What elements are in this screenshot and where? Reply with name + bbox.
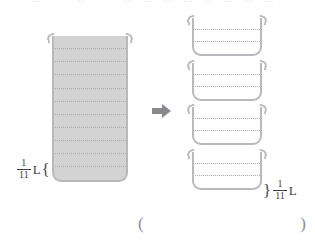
clipped-text: — □ — □ — □ □ □ □ □ □ □ □ [8, 0, 277, 6]
left-fraction: 1 11 [17, 158, 31, 180]
left-brace: { [42, 161, 50, 178]
portion-container-3 [192, 107, 262, 145]
left-unit: L [33, 163, 41, 176]
right-measure-label: } 1 11 L [262, 179, 297, 201]
right-fraction-denominator: 11 [273, 190, 287, 202]
right-brace: } [263, 182, 271, 199]
arrow-right-icon [152, 103, 172, 119]
portion-container-4-graduations [195, 152, 260, 188]
answer-blank-open-paren: ( [138, 214, 144, 234]
answer-blank-close-paren: ) [300, 214, 306, 234]
portion-container-1-graduations [195, 18, 260, 54]
whole-container-graduations [55, 36, 126, 180]
portion-container-1 [192, 18, 262, 56]
right-unit: L [289, 184, 297, 197]
left-fraction-numerator: 1 [19, 158, 28, 169]
right-fraction-numerator: 1 [275, 179, 284, 190]
whole-container [52, 36, 128, 182]
portion-container-4 [192, 152, 262, 190]
portion-container-3-graduations [195, 107, 260, 143]
portion-container-2-graduations [195, 63, 260, 99]
left-fraction-denominator: 11 [17, 169, 31, 181]
clipped-text-strip: — □ — □ — □ □ □ □ □ □ □ □ [0, 0, 315, 11]
left-measure-label: 1 11 L { [16, 158, 51, 180]
right-fraction: 1 11 [273, 179, 287, 201]
portion-container-2 [192, 63, 262, 101]
answer-blank[interactable]: ( ) [138, 212, 306, 236]
